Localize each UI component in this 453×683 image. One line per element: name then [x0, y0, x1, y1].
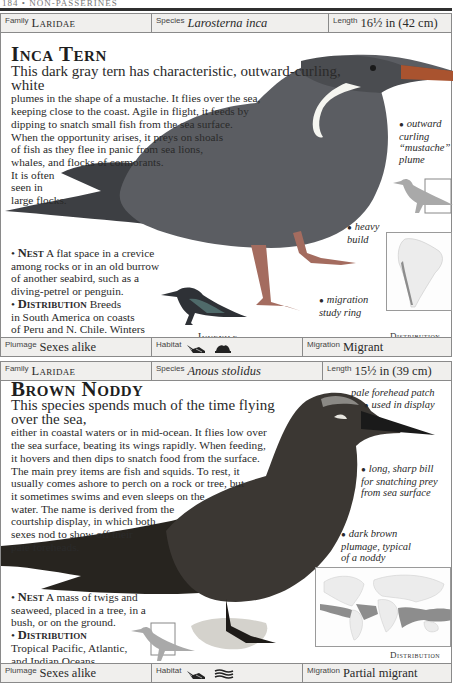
description-line: courtship display, in which both	[11, 515, 301, 528]
callout-heavy-build: ●heavy build	[347, 221, 379, 245]
description-line: This dark gray tern has characteristic, …	[11, 65, 341, 92]
species-entry-brown-noddy: FamilyLaridae SpeciesAnous stolidus Leng…	[0, 361, 452, 683]
bullet-icon: ●	[347, 223, 352, 232]
callout-dark-brown-plumage: ●dark brown plumage, typical of a noddy	[341, 528, 411, 564]
distribution-map-world	[315, 567, 451, 647]
bullet-icon: ●	[364, 401, 369, 410]
description-first-line: This species spends much of the time fly…	[11, 397, 275, 427]
description-line: seen in	[11, 181, 341, 194]
description-line: of fish as they flee in panic from sea l…	[11, 143, 341, 156]
species-description: This dark gray tern has characteristic, …	[11, 65, 341, 207]
description-line: large flocks.	[11, 194, 341, 207]
species-entry-inca-tern: FamilyLaridae SpeciesLarosterna inca Len…	[0, 13, 452, 357]
sea-waves-icon	[187, 669, 205, 679]
callout-line: used in display	[372, 399, 435, 410]
callout-line: long, sharp bill	[369, 463, 433, 474]
description-first-line: This dark gray tern has characteristic, …	[11, 63, 341, 93]
nest-line: seaweed, placed in a tree, in a	[11, 604, 171, 617]
distribution-line: of Peru and N. Chile. Winters	[11, 323, 191, 336]
callout-line: build	[347, 234, 379, 246]
description-line: water. The name is derived from the	[11, 503, 301, 516]
callout-line: plumage, typical	[341, 541, 411, 553]
callout-sharp-bill: ●long, sharp bill for snatching prey fro…	[361, 463, 438, 499]
callout-line: outward	[407, 118, 442, 129]
callout-line: pale forehead patch	[351, 387, 435, 399]
species-footer-bar: PlumageSexes alike Habitat MigrationPart…	[1, 663, 451, 683]
species-description: This species spends much of the time fly…	[11, 399, 301, 553]
migration-label: Migration	[307, 340, 340, 349]
nest-section: • Nest A mass of twigs and seaweed, plac…	[11, 591, 171, 667]
description-line: This species spends much of the time fly…	[11, 399, 301, 426]
callout-forehead-patch: pale forehead patch ●used in display	[351, 387, 435, 411]
distribution-line: Tropical Pacific, Atlantic,	[11, 642, 171, 655]
bullet-icon: ●	[361, 465, 366, 474]
description-line: sexes nod to show off their	[11, 528, 301, 541]
open-ocean-icon	[215, 669, 233, 679]
migration-cell: MigrationPartial migrant	[303, 664, 451, 682]
map-graphic	[316, 568, 452, 648]
description-line: keeping close to the coast. Agile in fli…	[11, 105, 341, 118]
plumage-cell: PlumageSexes alike	[1, 664, 152, 682]
nest-line: A mass of twigs and	[46, 591, 138, 603]
description-line: the sea surface, beating its wings rapid…	[11, 439, 301, 452]
callout-line: study ring	[319, 307, 368, 319]
bullet-icon: ●	[399, 120, 404, 129]
distribution-line: Breeds	[90, 298, 121, 310]
plumage-label: Plumage	[5, 340, 37, 349]
callout-mustache-plume: ●outward curling “mustache” plume	[399, 118, 450, 165]
nest-section: • Nest A flat space in a crevice among r…	[11, 247, 191, 349]
callout-migration-ring: ●migration study ring	[319, 294, 368, 318]
description-line: usually comes ashore to perch on a rock …	[11, 477, 301, 490]
size-silhouette-icon	[393, 177, 453, 217]
nest-line: of another seabird, such as a	[11, 272, 191, 285]
nest-line: A flat space in a crevice	[46, 247, 154, 259]
habitat-label: Habitat	[156, 340, 181, 349]
description-line: When the opportunity arises, it preys on…	[11, 131, 341, 144]
plumage-value: Sexes alike	[40, 340, 97, 354]
callout-line: from sea surface	[361, 487, 438, 499]
callout-line: dark brown	[349, 528, 397, 539]
migration-label: Migration	[307, 666, 340, 675]
distribution-heading: Distribution	[18, 297, 87, 311]
habitat-cell: Habitat	[152, 338, 303, 356]
coast-rocks-icon	[215, 343, 231, 353]
description-line: pale foreheads.	[11, 541, 301, 554]
description-line: plumes in the shape of a mustache. It fl…	[11, 92, 341, 105]
description-line: either in coastal waters or in mid-ocean…	[11, 426, 301, 439]
callout-line: for snatching prey	[361, 476, 438, 488]
page-header-text: 184 • NON-PASSERINES	[2, 0, 118, 8]
description-line: whales, and flocks of cormorants.	[11, 156, 341, 169]
plumage-label: Plumage	[5, 666, 37, 675]
distribution-line: in South America on coasts	[11, 311, 191, 324]
description-line: it hovers and then dips to snatch food f…	[11, 452, 301, 465]
callout-line: of a noddy	[341, 552, 411, 564]
map-graphic	[387, 233, 453, 312]
habitat-label: Habitat	[156, 666, 181, 675]
description-line: it sometimes swims and even sleeps on th…	[11, 490, 301, 503]
callout-line: migration	[327, 294, 368, 305]
migration-cell: MigrationMigrant	[303, 338, 451, 356]
map-caption: Distribution	[390, 650, 440, 660]
nest-line: among rocks or in an old burrow	[11, 260, 191, 273]
description-line: It is often	[11, 169, 341, 182]
distribution-heading: Distribution	[18, 628, 87, 642]
callout-line: curling	[399, 131, 450, 143]
callout-line: “mustache”	[399, 142, 450, 154]
bullet-icon: ●	[319, 296, 324, 305]
habitat-cell: Habitat	[152, 664, 303, 682]
description-line: dipping to snatch small fish from the se…	[11, 118, 341, 131]
migration-value: Partial migrant	[343, 666, 418, 680]
callout-line: plume	[399, 154, 450, 166]
species-footer-bar: PlumageSexes alike Habitat MigrationMigr…	[1, 337, 451, 357]
plumage-value: Sexes alike	[40, 666, 97, 680]
migration-value: Migrant	[343, 340, 383, 354]
plumage-cell: PlumageSexes alike	[1, 338, 152, 356]
description-line: The main prey items are fish and squids.…	[11, 465, 301, 478]
nest-heading: Nest	[18, 590, 44, 604]
header-rule	[0, 8, 452, 11]
callout-line: heavy	[355, 221, 379, 232]
sea-waves-icon	[187, 343, 205, 353]
nest-heading: Nest	[18, 246, 44, 260]
bullet-icon: ●	[341, 530, 346, 539]
distribution-map-south-america	[386, 232, 452, 311]
